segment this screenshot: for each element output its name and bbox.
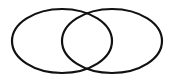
venn-diagram [0, 0, 172, 79]
